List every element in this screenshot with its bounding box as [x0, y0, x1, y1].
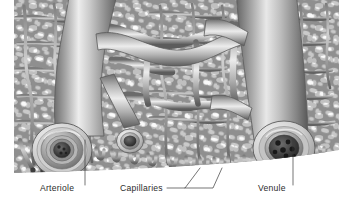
microcirculation-figure: Arteriole Capillaries Venule — [0, 0, 340, 205]
venule-cross-section — [253, 121, 315, 175]
leader-capillaries-1 — [167, 168, 200, 188]
arteriole-cross-section — [32, 123, 92, 177]
label-venule: Venule — [258, 183, 286, 193]
capillary-stub-end — [30, 167, 35, 172]
illustration-plate — [14, 0, 340, 178]
label-arteriole: Arteriole — [40, 183, 74, 193]
leader-capillaries-2 — [185, 168, 222, 188]
label-capillaries: Capillaries — [120, 183, 163, 193]
figure-labels: Arteriole Capillaries Venule — [40, 183, 286, 193]
illustration-canvas: Arteriole Capillaries Venule — [0, 0, 340, 205]
cut-branch-cross-section — [117, 129, 144, 153]
